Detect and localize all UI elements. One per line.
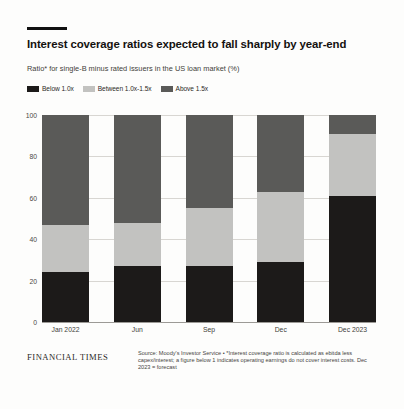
- bar-segment: [257, 192, 304, 262]
- source-note: Source: Moody's Investor Service • *Inte…: [138, 350, 380, 372]
- legend-swatch-icon: [27, 86, 39, 92]
- x-axis-labels: Jan 2022JunSepDecDec 2023: [42, 326, 376, 333]
- y-axis-tick-label: 80: [29, 153, 37, 160]
- y-axis-tick-label: 100: [26, 112, 37, 119]
- legend-swatch-icon: [161, 86, 173, 92]
- bar-segment: [114, 266, 161, 322]
- bar-segment: [186, 266, 233, 322]
- legend-label: Above 1.5x: [176, 85, 209, 92]
- bar-segment: [186, 115, 233, 208]
- x-axis-tick-label: Dec: [257, 326, 304, 333]
- bar-segment: [257, 262, 304, 322]
- bar-segment: [329, 115, 376, 134]
- bar-segment: [329, 134, 376, 196]
- legend-item[interactable]: Below 1.0x: [27, 85, 74, 92]
- bar-column[interactable]: [114, 115, 161, 322]
- bar-segment: [114, 115, 161, 223]
- plot-area: 020406080100: [42, 115, 376, 322]
- x-axis-tick-label: Jan 2022: [42, 326, 89, 333]
- bar-column[interactable]: [257, 115, 304, 322]
- bar-segment: [42, 272, 89, 322]
- legend-label: Between 1.0x-1.5x: [98, 85, 152, 92]
- gridline: 0: [42, 322, 376, 323]
- y-axis-tick-label: 0: [33, 319, 37, 326]
- x-axis-tick-label: Sep: [186, 326, 233, 333]
- legend-swatch-icon: [83, 86, 95, 92]
- ft-brand-wordmark: FINANCIAL TIMES: [27, 352, 108, 362]
- chart-page: Interest coverage ratios expected to fal…: [0, 0, 404, 409]
- y-axis-tick-label: 20: [29, 277, 37, 284]
- bar-group: [42, 115, 376, 322]
- y-axis-tick-label: 60: [29, 194, 37, 201]
- title-rule: [27, 27, 67, 30]
- chart-legend: Below 1.0xBetween 1.0x-1.5xAbove 1.5x: [27, 85, 208, 92]
- legend-label: Below 1.0x: [42, 85, 74, 92]
- bar-segment: [329, 196, 376, 322]
- x-axis-tick-label: Dec 2023: [329, 326, 376, 333]
- bar-segment: [186, 208, 233, 266]
- bar-segment: [42, 115, 89, 225]
- legend-item[interactable]: Above 1.5x: [161, 85, 209, 92]
- page-title: Interest coverage ratios expected to fal…: [27, 37, 377, 51]
- chart-subtitle: Ratio* for single-B minus rated issuers …: [27, 64, 377, 74]
- bar-column[interactable]: [186, 115, 233, 322]
- bar-column[interactable]: [329, 115, 376, 322]
- x-axis-tick-label: Jun: [114, 326, 161, 333]
- bar-column[interactable]: [42, 115, 89, 322]
- bar-segment: [114, 223, 161, 266]
- bar-segment: [257, 115, 304, 192]
- bar-segment: [42, 225, 89, 273]
- legend-item[interactable]: Between 1.0x-1.5x: [83, 85, 152, 92]
- y-axis-tick-label: 40: [29, 236, 37, 243]
